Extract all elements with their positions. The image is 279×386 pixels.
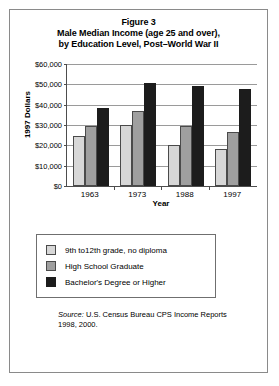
- legend-label: 9th to12th grade, no diploma: [65, 246, 167, 255]
- y-tick-label: $20,000: [35, 141, 62, 150]
- y-axis-title: 1997 Dollars: [23, 70, 32, 160]
- source-note: Source: U.S. Census Bureau CPS Income Re…: [58, 310, 258, 330]
- y-tick-label: $50,000: [35, 80, 62, 89]
- title-line-3: by Education Level, Post–World War II: [10, 39, 267, 50]
- figure-title: Figure 3 Male Median Income (age 25 and …: [10, 10, 267, 50]
- bar-1997-series-0: [215, 149, 227, 186]
- bar-group-1997: [215, 64, 251, 186]
- x-tick-mark: [209, 186, 210, 190]
- bar-1963-series-0: [73, 136, 85, 186]
- bar-1988-series-1: [180, 126, 192, 186]
- source-line-2: 1998, 2000.: [58, 320, 258, 330]
- y-tick-label: $40,000: [35, 100, 62, 109]
- legend-label: High School Graduate: [65, 262, 144, 271]
- bar-group-1988: [168, 64, 204, 186]
- bar-1988-series-2: [192, 86, 204, 186]
- chart-legend: 9th to12th grade, no diplomaHigh School …: [36, 234, 216, 298]
- x-tick-label: 1973: [128, 190, 146, 199]
- figure-frame: Figure 3 Male Median Income (age 25 and …: [9, 9, 268, 373]
- bar-1997-series-1: [227, 132, 239, 186]
- bar-1973-series-0: [120, 125, 132, 186]
- bar-1973-series-1: [132, 111, 144, 186]
- bar-chart: 1997 Dollars $0$10,000$20,000$30,000$40,…: [10, 58, 269, 210]
- legend-item-2: Bachelor's Degree or Higher: [46, 274, 207, 290]
- y-tick-label: $0: [54, 182, 62, 191]
- y-tick-label: $30,000: [35, 121, 62, 130]
- bar-1963-series-2: [97, 108, 109, 186]
- bar-1997-series-2: [239, 89, 251, 186]
- plot-area: $0$10,000$20,000$30,000$40,000$50,000$60…: [66, 64, 257, 187]
- bar-1963-series-1: [85, 126, 97, 186]
- title-line-1: Figure 3: [10, 17, 267, 28]
- x-axis-ticks: 1963197319881997: [66, 186, 256, 200]
- legend-swatch-icon: [46, 245, 56, 255]
- source-text: U.S. Census Bureau CPS Income Reports: [84, 310, 227, 319]
- legend-swatch-icon: [46, 277, 56, 287]
- legend-item-0: 9th to12th grade, no diploma: [46, 242, 207, 258]
- source-label: Source:: [58, 310, 84, 319]
- x-tick-mark: [114, 186, 115, 190]
- bar-group-1973: [120, 64, 156, 186]
- legend-label: Bachelor's Degree or Higher: [65, 278, 166, 287]
- title-line-2: Male Median Income (age 25 and over),: [10, 28, 267, 39]
- bar-groups: [67, 64, 257, 186]
- x-tick-mark: [161, 186, 162, 190]
- x-tick-label: 1997: [223, 190, 241, 199]
- x-tick-label: 1963: [81, 190, 99, 199]
- legend-item-1: High School Graduate: [46, 258, 207, 274]
- bar-1973-series-2: [144, 83, 156, 186]
- y-tick-label: $60,000: [35, 60, 62, 69]
- y-tick-label: $10,000: [35, 161, 62, 170]
- legend-swatch-icon: [46, 261, 56, 271]
- x-axis-title: Year: [66, 199, 256, 208]
- bar-1988-series-0: [168, 145, 180, 186]
- bar-group-1963: [73, 64, 109, 186]
- x-tick-label: 1988: [176, 190, 194, 199]
